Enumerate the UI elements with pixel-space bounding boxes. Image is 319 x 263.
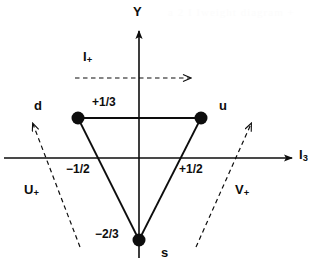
operator-label-u-plus-text: U <box>24 182 33 197</box>
value-label-y-minus-two-thirds: −2/3 <box>95 228 119 240</box>
operator-label-i-plus-subscript: + <box>87 55 92 65</box>
point-s[interactable] <box>133 234 146 247</box>
value-label-i3-minus-half: −1/2 <box>66 163 90 175</box>
i3-axis-label: I3 <box>299 148 308 164</box>
triangle-edge-u-s <box>139 118 201 240</box>
y-axis-label: Y <box>133 5 142 18</box>
operator-label-v-plus: V+ <box>235 183 249 199</box>
point-u[interactable] <box>195 112 208 125</box>
operator-label-u-plus-subscript: + <box>33 188 38 198</box>
diagram-canvas <box>0 0 319 263</box>
quark-label-u: u <box>219 99 227 112</box>
operator-label-u-plus: U+ <box>24 183 39 199</box>
quark-label-s: s <box>161 246 168 259</box>
triangle-edge-d-s <box>78 118 139 240</box>
i3-axis-label-subscript: 3 <box>303 153 308 163</box>
u-plus-arrow <box>33 124 80 247</box>
operator-label-v-plus-text: V <box>235 182 244 197</box>
quark-label-d: d <box>34 99 42 112</box>
value-label-y-plus-one-third: +1/3 <box>92 96 116 108</box>
value-label-i3-plus-half: +1/2 <box>179 163 203 175</box>
operator-label-i-plus: I+ <box>83 50 92 66</box>
point-d[interactable] <box>72 112 85 125</box>
operator-label-v-plus-subscript: + <box>244 188 249 198</box>
su3-quark-weight-diagram: a 2 I Iweight diagram + <box>0 0 319 263</box>
